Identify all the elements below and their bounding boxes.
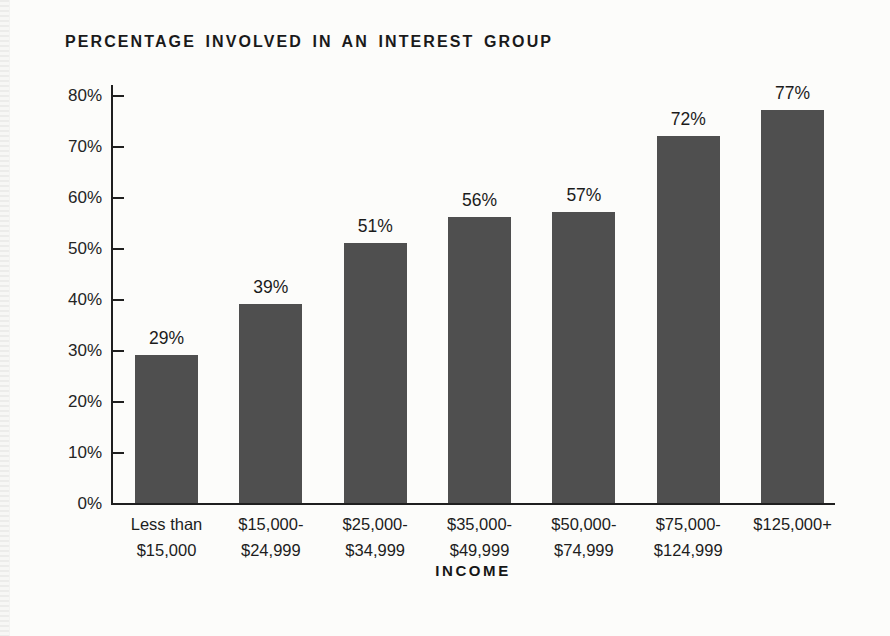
x-category-label-line: $125,000+ xyxy=(737,511,849,537)
bar-value-label: 51% xyxy=(327,215,423,237)
y-tick-mark xyxy=(113,248,124,250)
bar xyxy=(344,243,407,503)
scanned-page: PERCENTAGE INVOLVED IN AN INTEREST GROUP… xyxy=(0,0,890,636)
y-tick-label: 40% xyxy=(38,290,102,310)
x-category-label-line: $50,000- xyxy=(528,511,640,537)
bar-value-label: 57% xyxy=(536,184,632,206)
y-tick-mark xyxy=(113,350,124,352)
x-category-label-line: $35,000- xyxy=(424,511,536,537)
y-axis-line xyxy=(111,85,113,505)
y-tick-mark xyxy=(113,452,124,454)
bar xyxy=(657,136,720,503)
x-category-label-line: $15,000 xyxy=(111,537,223,563)
x-axis-title: INCOME xyxy=(373,562,573,579)
x-category-label: $125,000+ xyxy=(737,511,849,537)
x-category-label-line: $24,999 xyxy=(215,537,327,563)
y-tick-label: 60% xyxy=(38,188,102,208)
x-category-label-line: $124,999 xyxy=(632,537,744,563)
x-category-label: $50,000-$74,999 xyxy=(528,511,640,563)
bar-value-label: 72% xyxy=(640,108,736,130)
x-category-label: $35,000-$49,999 xyxy=(424,511,536,563)
y-tick-mark xyxy=(113,197,124,199)
x-category-label: $75,000-$124,999 xyxy=(632,511,744,563)
y-tick-label: 30% xyxy=(38,341,102,361)
x-category-label-line: $34,999 xyxy=(319,537,431,563)
y-tick-mark xyxy=(113,146,124,148)
x-category-label-line: Less than xyxy=(111,511,223,537)
y-tick-mark xyxy=(113,95,124,97)
bar xyxy=(239,304,302,503)
x-category-label: Less than$15,000 xyxy=(111,511,223,563)
y-tick-label: 0% xyxy=(38,494,102,514)
x-category-label: $15,000-$24,999 xyxy=(215,511,327,563)
bar-value-label: 56% xyxy=(432,189,528,211)
y-tick-mark xyxy=(113,401,124,403)
y-tick-label: 50% xyxy=(38,239,102,259)
bar-value-label: 39% xyxy=(223,276,319,298)
x-category-label: $25,000-$34,999 xyxy=(319,511,431,563)
bar xyxy=(135,355,198,503)
x-category-label-line: $15,000- xyxy=(215,511,327,537)
bar xyxy=(552,212,615,503)
bar xyxy=(448,217,511,503)
page-edge-texture xyxy=(0,0,10,636)
bar-value-label: 77% xyxy=(745,82,841,104)
x-category-label-line: $75,000- xyxy=(632,511,744,537)
y-tick-label: 80% xyxy=(38,86,102,106)
x-axis-line xyxy=(111,503,835,505)
y-tick-mark xyxy=(113,299,124,301)
x-category-label-line: $74,999 xyxy=(528,537,640,563)
chart-title: PERCENTAGE INVOLVED IN AN INTEREST GROUP xyxy=(65,33,553,51)
bar-value-label: 29% xyxy=(119,327,215,349)
x-category-label-line: $25,000- xyxy=(319,511,431,537)
bar xyxy=(761,110,824,503)
y-tick-label: 70% xyxy=(38,137,102,157)
y-tick-label: 10% xyxy=(38,443,102,463)
x-category-label-line: $49,999 xyxy=(424,537,536,563)
y-tick-label: 20% xyxy=(38,392,102,412)
y-tick-mark xyxy=(113,503,124,505)
